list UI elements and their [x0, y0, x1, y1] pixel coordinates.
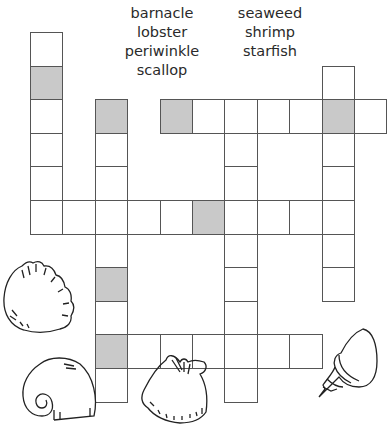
crossword-cell[interactable] — [224, 234, 257, 269]
crossword-cell[interactable] — [224, 200, 257, 235]
crossword-cell[interactable] — [30, 166, 63, 201]
crossword-cell[interactable] — [322, 234, 355, 269]
cockle-shell-icon — [136, 350, 218, 426]
crossword-cell[interactable] — [224, 133, 257, 168]
crossword-cell[interactable] — [322, 133, 355, 168]
crossword-cell[interactable] — [289, 99, 322, 134]
crossword-cell-start[interactable] — [95, 99, 128, 134]
crossword-cell[interactable] — [257, 334, 290, 369]
crossword-cell[interactable] — [289, 200, 322, 235]
crossword-cell-start[interactable] — [95, 267, 128, 302]
crossword-cell[interactable] — [224, 301, 257, 336]
crossword-cell[interactable] — [62, 200, 95, 235]
crossword-cell[interactable] — [257, 200, 290, 235]
crossword-cell[interactable] — [95, 166, 128, 201]
crossword-cell[interactable] — [160, 200, 193, 235]
crossword-cell[interactable] — [224, 334, 257, 369]
crossword-cell[interactable] — [224, 99, 257, 134]
crossword-cell[interactable] — [322, 200, 355, 235]
crossword-cell[interactable] — [192, 99, 225, 134]
crossword-cell-start[interactable] — [160, 99, 193, 134]
crossword-cell[interactable] — [95, 133, 128, 168]
crossword-cell[interactable] — [224, 166, 257, 201]
crossword-cell[interactable] — [354, 99, 387, 134]
crossword-cell-start[interactable] — [192, 200, 225, 235]
crossword-cell[interactable] — [127, 200, 160, 235]
crossword-cell-start[interactable] — [322, 99, 355, 134]
crossword-cell[interactable] — [30, 200, 63, 235]
crossword-cell[interactable] — [30, 133, 63, 168]
crossword-cell[interactable] — [322, 267, 355, 302]
crossword-cell[interactable] — [322, 66, 355, 101]
crossword-cell[interactable] — [95, 200, 128, 235]
crossword-cell[interactable] — [224, 267, 257, 302]
crossword-cell[interactable] — [257, 99, 290, 134]
crossword-cell[interactable] — [224, 368, 257, 403]
crossword-cell[interactable] — [95, 301, 128, 336]
crossword-cell[interactable] — [95, 234, 128, 269]
crossword-cell[interactable] — [322, 166, 355, 201]
crossword-cell-start[interactable] — [30, 66, 63, 101]
whelk-shell-icon — [315, 325, 387, 421]
scallop-shell-icon — [0, 258, 78, 334]
crossword-cell[interactable] — [30, 32, 63, 67]
crossword-cell[interactable] — [30, 99, 63, 134]
moon-snail-shell-icon — [18, 354, 100, 424]
